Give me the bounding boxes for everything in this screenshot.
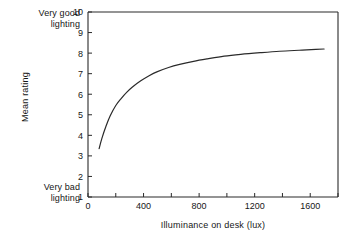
curve-series-0 [99, 49, 324, 149]
x-tick-label-400: 400 [136, 201, 151, 211]
y-axis-ticks: 12345678910 [73, 7, 92, 202]
axis-frame [88, 12, 338, 197]
y-tick-label-9: 9 [78, 28, 83, 38]
chart-figure: Very good lighting Very bad lighting Mea… [0, 0, 353, 240]
y-tick-label-5: 5 [78, 110, 83, 120]
y-tick-label-10: 10 [73, 7, 83, 17]
y-tick-label-2: 2 [78, 172, 83, 182]
y-tick-label-7: 7 [78, 69, 83, 79]
y-tick-label-8: 8 [78, 49, 83, 59]
y-tick-label-6: 6 [78, 90, 83, 100]
y-tick-label-4: 4 [78, 131, 83, 141]
x-tick-label-800: 800 [192, 201, 207, 211]
y-tick-label-1: 1 [78, 192, 83, 202]
x-axis-ticks: 040080012001600 [85, 193, 338, 211]
x-tick-label-1600: 1600 [300, 201, 320, 211]
plot-area: 040080012001600 12345678910 [0, 0, 353, 240]
x-tick-label-1200: 1200 [245, 201, 265, 211]
x-tick-label-0: 0 [85, 201, 90, 211]
data-curve [99, 49, 324, 149]
y-tick-label-3: 3 [78, 151, 83, 161]
